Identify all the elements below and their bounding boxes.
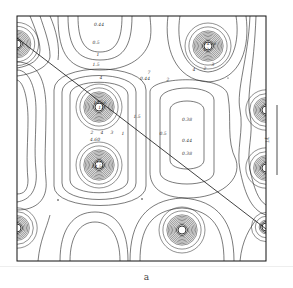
contour-value-label: 2 bbox=[203, 66, 207, 71]
marker-dot bbox=[141, 198, 143, 200]
contour-value-label: 0.38 bbox=[182, 151, 192, 156]
contour-value-label: 0.44 bbox=[94, 22, 104, 27]
contour-value-label: 4.60 bbox=[89, 137, 100, 142]
contour-value-label: 1.5 bbox=[133, 114, 140, 119]
atom-top-left bbox=[0, 22, 39, 65]
figure-caption: a bbox=[0, 272, 293, 282]
contour-value-labels: 0.440.511.5470.4414.5613244.6011.5314.56… bbox=[89, 22, 217, 169]
contour-value-label: 14.56 bbox=[92, 164, 105, 169]
contour-lines bbox=[0, 16, 286, 261]
contour-value-label: 0.44 bbox=[140, 76, 150, 81]
contour-value-label: 1 bbox=[97, 52, 100, 57]
contour-value-label: 13 bbox=[98, 105, 104, 110]
contour-value-label: 4 bbox=[99, 75, 103, 80]
scale-bar-label: 1Å bbox=[264, 137, 270, 143]
marker-dot bbox=[227, 77, 228, 78]
atom-bottom-left bbox=[0, 208, 37, 248]
atom-top-right bbox=[185, 23, 231, 69]
contour-value-label: 2 bbox=[90, 130, 94, 135]
marker-dot bbox=[57, 199, 59, 201]
contour-value-label: 0.44 bbox=[182, 138, 192, 143]
contour-value-label: 4 bbox=[192, 67, 196, 72]
separator bbox=[0, 266, 293, 267]
contour-value-label: 2 bbox=[166, 77, 170, 82]
contour-value-label: 4 bbox=[100, 130, 104, 135]
atom-bottom-center bbox=[159, 207, 205, 253]
diagonal-section-line bbox=[17, 38, 266, 229]
contour-value-label: 7 bbox=[148, 70, 151, 75]
contour-value-label: 13 bbox=[96, 159, 102, 164]
contour-value-label: 14.56 bbox=[204, 41, 217, 46]
contour-value-label: 0.5 bbox=[159, 131, 166, 136]
contour-value-label: 1.5 bbox=[92, 62, 99, 67]
contour-value-label: 3 bbox=[212, 62, 215, 67]
contour-value-label: 0.38 bbox=[182, 117, 192, 122]
contour-map-figure: 1Å 0.440.511.5470.4414.5613244.6011.5314… bbox=[0, 0, 293, 288]
contour-value-label: 3 bbox=[111, 130, 114, 135]
plot-frame bbox=[17, 16, 266, 261]
contour-value-label: 1 bbox=[122, 131, 125, 136]
contour-value-label: 13 bbox=[203, 47, 209, 52]
contour-value-label: 0.5 bbox=[92, 40, 99, 45]
